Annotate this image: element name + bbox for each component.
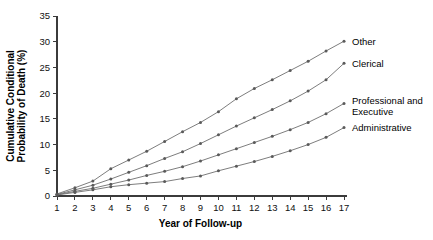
series-point: [181, 130, 184, 133]
series-point: [91, 184, 94, 187]
series-point: [343, 102, 346, 105]
series-point: [217, 169, 220, 172]
series-line: [57, 103, 344, 194]
series-point: [181, 165, 184, 168]
x-tick-label: 11: [231, 202, 241, 213]
series-point: [199, 174, 202, 177]
series-point: [253, 160, 256, 163]
series-point: [253, 141, 256, 144]
series-point: [325, 78, 328, 81]
series-point: [307, 121, 310, 124]
x-tick-label: 15: [303, 202, 314, 213]
series-point: [145, 150, 148, 153]
x-tick-label: 12: [249, 202, 260, 213]
series-layer: [56, 40, 346, 197]
series-point: [325, 49, 328, 52]
series-point: [145, 182, 148, 185]
series-point: [325, 136, 328, 139]
series-point: [199, 160, 202, 163]
y-tick-label: 30: [39, 36, 50, 47]
series-point: [181, 177, 184, 180]
x-tick-label: 7: [162, 202, 167, 213]
series-point: [56, 193, 59, 196]
series-point: [73, 191, 76, 194]
series-point: [217, 110, 220, 113]
series-line: [57, 41, 344, 194]
x-tick-label: 17: [339, 202, 350, 213]
x-axis-title: Year of Follow-up: [159, 218, 242, 229]
series-point: [271, 78, 274, 81]
series-point: [127, 159, 130, 162]
series-point: [343, 62, 346, 65]
series-point: [163, 180, 166, 183]
y-tick-label: 10: [39, 139, 50, 150]
x-tick-label: 5: [126, 202, 131, 213]
series-point: [91, 180, 94, 183]
series-point: [127, 171, 130, 174]
series-3: [56, 102, 346, 196]
x-tick-label: 2: [72, 202, 77, 213]
x-tick-label: 9: [198, 202, 203, 213]
x-tick-label: 4: [108, 202, 113, 213]
series-point: [109, 185, 112, 188]
series-point: [127, 179, 130, 182]
x-tick-label: 3: [90, 202, 95, 213]
series-label-3-line2: Executive: [352, 106, 393, 117]
series-point: [91, 188, 94, 191]
series-label-4: Administrative: [352, 122, 412, 133]
y-axis-title-line1: Cumulative Conditional: [5, 50, 16, 162]
series-point: [253, 87, 256, 90]
series-point: [163, 140, 166, 143]
series-point: [181, 150, 184, 153]
series-point: [307, 60, 310, 63]
y-tick-label: 35: [39, 10, 50, 21]
line-chart: 05101520253035 1234567891011121314151617…: [0, 0, 433, 240]
y-tick-label: 15: [39, 113, 50, 124]
series-point: [109, 183, 112, 186]
series-point: [163, 170, 166, 173]
y-tick-label: 20: [39, 88, 50, 99]
series-point: [127, 183, 130, 186]
x-tick-label: 1: [54, 202, 59, 213]
x-axis: 1234567891011121314151617: [54, 196, 349, 213]
series-point: [235, 97, 238, 100]
series-1: [56, 40, 346, 196]
x-tick-label: 6: [144, 202, 149, 213]
series-label-2: Clerical: [352, 58, 384, 69]
series-point: [343, 126, 346, 129]
series-point: [289, 128, 292, 131]
series-point: [289, 149, 292, 152]
series-point: [217, 133, 220, 136]
series-labels: OtherClericalProfessional andExecutiveAd…: [352, 36, 423, 133]
series-point: [271, 155, 274, 158]
series-point: [253, 116, 256, 119]
y-tick-label: 25: [39, 62, 50, 73]
series-point: [343, 40, 346, 43]
x-tick-label: 10: [213, 202, 224, 213]
series-point: [271, 135, 274, 138]
series-point: [235, 147, 238, 150]
series-point: [217, 153, 220, 156]
series-point: [109, 178, 112, 181]
series-point: [307, 90, 310, 93]
series-point: [145, 174, 148, 177]
series-label-3: Professional and: [352, 95, 423, 106]
series-point: [307, 143, 310, 146]
y-axis: 05101520253035: [39, 10, 57, 201]
series-point: [289, 99, 292, 102]
y-axis-title-line2: Probability of Death (%): [16, 50, 27, 163]
series-label-1: Other: [352, 36, 376, 47]
x-tick-label: 8: [180, 202, 185, 213]
x-tick-label: 16: [321, 202, 332, 213]
series-point: [235, 165, 238, 168]
series-point: [289, 69, 292, 72]
series-point: [145, 164, 148, 167]
y-tick-label: 0: [45, 190, 50, 201]
x-tick-label: 14: [285, 202, 296, 213]
series-point: [199, 121, 202, 124]
series-point: [199, 142, 202, 145]
y-tick-label: 5: [45, 165, 50, 176]
series-point: [271, 108, 274, 111]
series-point: [325, 112, 328, 115]
series-point: [163, 157, 166, 160]
